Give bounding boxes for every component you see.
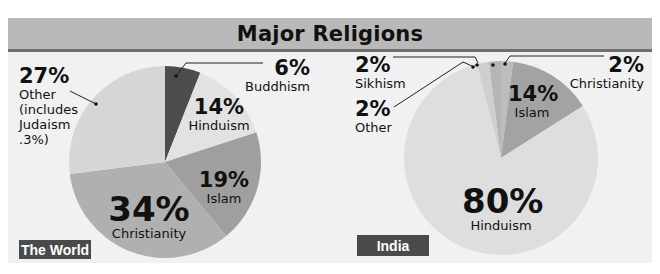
world-slice-other: [69, 66, 165, 174]
world-christianity-label: 34% Christianity: [106, 192, 192, 241]
world-other-label: 27% Other (includes Judaism .3%): [19, 66, 78, 147]
india-sikhism-label: 2% Sikhism: [355, 55, 406, 91]
world-hinduism-label: 14% Hinduism: [184, 97, 254, 133]
world-buddhism-label: 6% Buddhism: [238, 58, 310, 94]
pie-charts: [0, 0, 660, 274]
india-islam-label: 14% Islam: [508, 84, 556, 120]
world-islam-label: 19% Islam: [198, 170, 250, 206]
india-tag: India: [357, 235, 429, 256]
india-other-label: 2% Other: [355, 99, 392, 135]
world-tag: The World: [19, 240, 91, 259]
india-hinduism-label: 80% Hinduism: [462, 184, 540, 233]
india-christianity-label: 2% Christianity: [560, 55, 644, 91]
